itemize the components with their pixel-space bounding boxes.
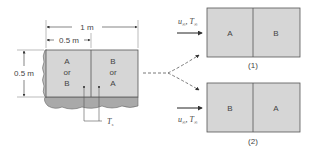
plate-thickness bbox=[44, 97, 138, 109]
config-1-right-label: B bbox=[273, 29, 278, 38]
right-region-label-2: or bbox=[109, 68, 116, 77]
plate-face bbox=[46, 50, 138, 97]
configuration-2: B A (2) bbox=[177, 83, 300, 146]
dimension-total-label: 1 m bbox=[80, 23, 94, 32]
dimension-height-label: 0.5 m bbox=[14, 69, 34, 78]
thermocouple-label: Ts bbox=[107, 117, 113, 127]
config-2-right-label: A bbox=[273, 104, 279, 113]
left-region-label-2: or bbox=[63, 68, 70, 77]
main-plate: A or B B or A bbox=[43, 50, 139, 121]
left-region-label-1: A bbox=[64, 57, 70, 66]
configuration-1: A B (1) bbox=[177, 8, 300, 70]
diagram-canvas: A or B B or A Ts 1 m 0.5 m 0.5 m bbox=[0, 0, 313, 152]
config-1-caption: (1) bbox=[248, 61, 258, 70]
config-1-left-label: A bbox=[227, 29, 233, 38]
config-2-caption: (2) bbox=[248, 137, 258, 146]
configuration-split-arrows bbox=[143, 55, 199, 90]
config-2-flow-label: u∞, T∞ bbox=[178, 115, 198, 125]
right-region-label-3: A bbox=[110, 79, 116, 88]
dimension-half-label: 0.5 m bbox=[59, 36, 79, 45]
config-2-left-label: B bbox=[227, 104, 232, 113]
left-region-label-3: B bbox=[64, 79, 69, 88]
right-region-label-1: B bbox=[110, 57, 115, 66]
config-1-flow-label: u∞, T∞ bbox=[178, 17, 198, 27]
